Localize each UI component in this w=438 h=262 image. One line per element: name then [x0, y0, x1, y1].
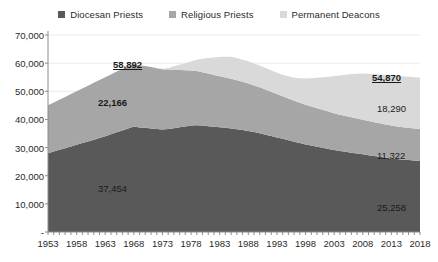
x-axis-tick-label: 1968	[123, 238, 144, 249]
x-axis-tick-label: 1963	[95, 238, 116, 249]
stacked-area-chart: Diocesan PriestsReligious PriestsPermane…	[0, 0, 438, 262]
x-axis-tick-label: 1993	[266, 238, 287, 249]
x-axis-tick-label: 2008	[352, 238, 373, 249]
y-axis-tick-label: 50,000	[0, 86, 44, 97]
plot-area	[0, 0, 438, 262]
x-axis-tick-label: 2003	[324, 238, 345, 249]
y-axis-tick-label: 10,000	[0, 198, 44, 209]
y-axis-tick-label: 20,000	[0, 170, 44, 181]
x-axis-tick-label: 2013	[381, 238, 402, 249]
area-series-svg	[0, 0, 438, 262]
y-axis-tick-label: 40,000	[0, 114, 44, 125]
total-1968-label: 58,892	[113, 59, 142, 70]
x-axis-tick-label: 1953	[37, 238, 58, 249]
x-axis-tick-label: 1973	[152, 238, 173, 249]
religious-priests-1968-label: 22,166	[98, 97, 127, 108]
diocesan-priests-2018-label: 25,258	[377, 202, 406, 213]
x-axis-tick-label: 2018	[409, 238, 430, 249]
diocesan-priests-1968-label: 37,454	[98, 183, 127, 194]
x-axis-tick-label: 1988	[238, 238, 259, 249]
y-axis-tick-label: 30,000	[0, 142, 44, 153]
y-axis-tick-label: 70,000	[0, 30, 44, 41]
y-axis-tick-label: -	[0, 227, 44, 238]
x-axis-tick-label: 1998	[295, 238, 316, 249]
x-axis-tick-label: 1958	[66, 238, 87, 249]
x-axis-tick-label: 1983	[209, 238, 230, 249]
x-axis-tick-label: 1978	[180, 238, 201, 249]
permanent-deacons-2018-label: 18,290	[377, 103, 406, 114]
religious-priests-2018-label: 11,322	[377, 150, 405, 161]
y-axis-tick-label: 60,000	[0, 58, 44, 69]
total-2018-label: 54,870	[372, 72, 401, 83]
